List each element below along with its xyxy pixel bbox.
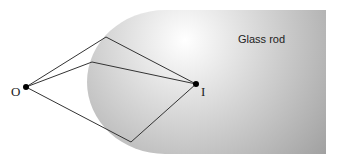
object-label: O [11,84,20,99]
image-point [193,81,199,87]
image-label: I [201,84,205,99]
optics-diagram: O I Glass rod [0,0,337,160]
glass-rod-label: Glass rod [238,33,285,45]
glass-rod [87,10,326,154]
object-point [23,84,29,90]
